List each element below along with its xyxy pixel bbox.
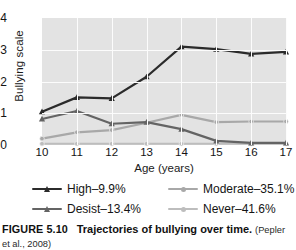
y-axis-tick-label: 3 <box>0 44 7 56</box>
chart: Bullying scale 01234 1011121314151617 Ag… <box>0 0 296 176</box>
legend-marker-icon <box>32 204 62 215</box>
figure-title: Trajectories of bullying over time. <box>77 223 252 235</box>
legend-label: Desist–13.4% <box>67 202 141 216</box>
x-axis-tick-label: 13 <box>132 147 162 159</box>
y-axis-tick-label: 0 <box>0 139 7 151</box>
x-axis-tick-label: 15 <box>201 147 231 159</box>
y-axis-label: Bullying scale <box>13 6 25 126</box>
y-axis-tick-label: 4 <box>0 12 7 24</box>
x-axis-tick-label: 12 <box>97 147 127 159</box>
figure-caption: FIGURE 5.10 Trajectories of bullying ove… <box>2 223 294 250</box>
legend-item: Moderate–35.1% <box>168 182 294 196</box>
x-axis-tick-label: 16 <box>236 147 266 159</box>
gridline-horizontal <box>42 82 286 83</box>
legend-marker-icon <box>168 204 198 215</box>
legend-label: Moderate–35.1% <box>203 182 294 196</box>
legend-label: High–9.9% <box>67 182 126 196</box>
y-axis-tick-label: 2 <box>0 76 7 88</box>
gridline-horizontal <box>42 50 286 51</box>
series-line <box>42 111 286 143</box>
figure-container: Bullying scale 01234 1011121314151617 Ag… <box>0 0 296 250</box>
chart-legend: High–9.9%Moderate–35.1%Desist–13.4%Never… <box>0 182 296 220</box>
gridline-horizontal <box>42 113 286 114</box>
x-axis-tick-label: 11 <box>62 147 92 159</box>
legend-item: Never–41.6% <box>168 202 276 216</box>
data-point-marker <box>40 136 45 141</box>
legend-marker-icon <box>168 184 198 195</box>
plot-area <box>42 18 286 145</box>
x-axis-tick-label: 17 <box>271 147 296 159</box>
legend-label: Never–41.6% <box>203 202 276 216</box>
legend-marker-icon <box>32 184 62 195</box>
gridline-vertical <box>286 18 287 145</box>
legend-item: High–9.9% <box>32 182 126 196</box>
x-axis-tick-label: 10 <box>27 147 57 159</box>
y-axis-tick-label: 1 <box>0 107 7 119</box>
x-axis-tick-label: 14 <box>166 147 196 159</box>
legend-item: Desist–13.4% <box>32 202 141 216</box>
x-axis-label: Age (years) <box>42 162 286 174</box>
figure-number: FIGURE 5.10 <box>2 223 68 235</box>
